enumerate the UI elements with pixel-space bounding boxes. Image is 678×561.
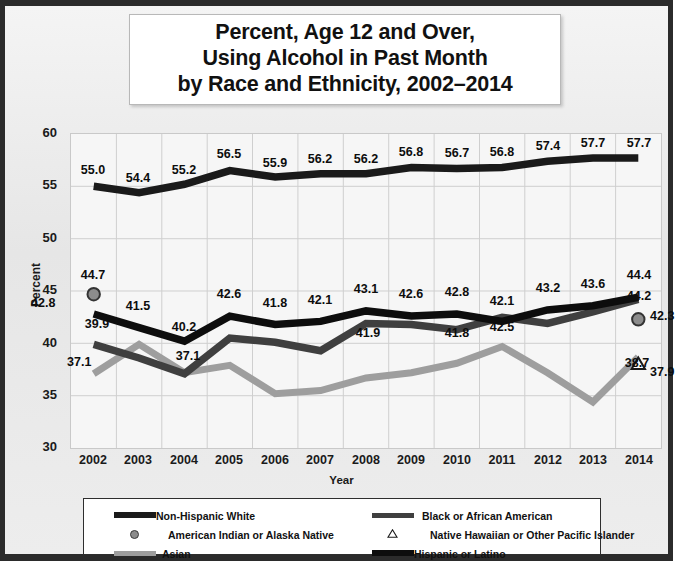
legend-line-swatch-asian (114, 551, 156, 556)
data-label-hisp-2003: 41.5 (116, 299, 160, 313)
marker-american-indian-2002 (88, 288, 100, 300)
y-tick-30: 30 (11, 439, 57, 454)
data-label-hisp-2014: 44.4 (617, 268, 661, 282)
data-label-nhw-2011: 56.8 (480, 145, 524, 159)
y-tick-60: 60 (11, 125, 57, 140)
legend-dot-marker-icon (130, 530, 139, 539)
legend-item-asian: Asian (114, 543, 191, 561)
data-label-hisp-2008: 43.1 (344, 282, 388, 296)
legend-item-american-indian-or-alaska-native: American Indian or Alaska Native (114, 524, 334, 543)
legend-item-hispanic-or-latino: Hispanic or Latino (372, 543, 506, 561)
data-label-nhw-2003: 54.4 (116, 171, 160, 185)
data-label-nhw-2005: 56.5 (207, 147, 251, 161)
data-label-nhw-2002: 55.0 (71, 163, 115, 177)
data-label-nhw-2012: 57.4 (526, 139, 570, 153)
title-line-1: Percent, Age 12 and Over, (136, 19, 554, 45)
data-label-baa-2008: 41.9 (346, 326, 390, 340)
data-label-hisp-2012: 43.2 (526, 281, 570, 295)
y-tick-55: 55 (11, 177, 57, 192)
y-tick-45: 45 (11, 282, 57, 297)
title-line-2: Using Alcohol in Past Month (136, 45, 554, 71)
data-label-hisp-2011: 42.1 (480, 294, 524, 308)
legend-triangle-marker-icon (387, 529, 397, 537)
data-label-baa-2010: 41.8 (435, 326, 479, 340)
data-label-nhw-2013: 57.7 (571, 136, 615, 150)
data-label-baa-2004: 37.1 (166, 349, 210, 363)
legend-item-black-or-african-american: Black or African American (372, 505, 553, 524)
data-label-hisp-2009: 42.6 (389, 287, 433, 301)
data-label-hisp-2002: 42.8 (31, 296, 55, 310)
data-label-nhw-2008: 56.2 (344, 152, 388, 166)
data-label-baa-2014: 44.2 (617, 289, 661, 303)
data-label-hisp-2006: 41.8 (253, 296, 297, 310)
legend: Non-Hispanic White American Indian or Al… (83, 498, 601, 555)
legend-item-native-hawaiian-or-other-pacific-islander: Native Hawaiian or Other Pacific Islande… (372, 524, 634, 543)
x-axis-label: Year (5, 474, 678, 486)
legend-line-swatch-non-hispanic-white (114, 512, 156, 518)
data-label-aian-2002: 44.7 (71, 268, 115, 282)
y-tick-35: 35 (11, 387, 57, 402)
legend-label-hispanic-or-latino: Hispanic or Latino (414, 545, 506, 561)
data-label-hisp-2005: 42.6 (207, 287, 251, 301)
data-label-nhw-2010: 56.7 (435, 146, 479, 160)
data-label-nhw-2014: 57.7 (617, 136, 661, 150)
legend-label-american-indian-or-alaska-native: American Indian or Alaska Native (168, 526, 334, 545)
title-line-3: by Race and Ethnicity, 2002–2014 (136, 71, 554, 97)
data-label-hisp-2007: 42.1 (298, 293, 342, 307)
data-label-nhopi-2014: 37.9 (650, 365, 674, 379)
legend-item-non-hispanic-white: Non-Hispanic White (114, 505, 255, 524)
data-label-asian-2002: 37.1 (67, 355, 91, 369)
data-label-nhw-2006: 55.9 (253, 156, 297, 170)
data-label-nhw-2007: 56.2 (298, 152, 342, 166)
page-title: Percent, Age 12 and Over, Using Alcohol … (129, 14, 561, 105)
y-tick-40: 40 (11, 335, 57, 350)
data-label-hisp-2004: 40.2 (162, 320, 206, 334)
x-tick-2014: 2014 (612, 453, 666, 467)
data-label-baa-2002: 39.9 (75, 317, 119, 331)
data-label-aian-2014: 42.3 (650, 309, 674, 323)
marker-american-indian-2014 (632, 313, 644, 325)
legend-line-swatch-black-or-african-american (372, 513, 414, 518)
y-tick-50: 50 (11, 230, 57, 245)
data-label-nhw-2009: 56.8 (389, 145, 433, 159)
data-label-hisp-2010: 42.8 (435, 285, 479, 299)
data-label-hisp-2013: 43.6 (571, 277, 615, 291)
data-label-nhw-2004: 55.2 (162, 163, 206, 177)
legend-line-swatch-hispanic-or-latino (372, 550, 414, 556)
legend-label-asian: Asian (162, 545, 191, 561)
data-label-baa-2011: 42.5 (480, 320, 524, 334)
